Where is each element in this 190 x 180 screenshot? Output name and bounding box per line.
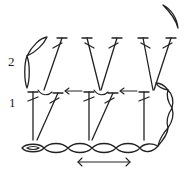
foundation-chain — [22, 144, 158, 153]
row2-stitches — [44, 38, 176, 90]
turning-chain-right — [156, 83, 173, 146]
turning-chain-left — [25, 37, 47, 88]
crochet-chart: 2 1 — [0, 0, 190, 180]
row1-stitches — [28, 90, 149, 140]
row-label-1: 1 — [9, 95, 16, 110]
repeat-arrow — [78, 158, 130, 166]
turning-chain-top-right — [163, 5, 178, 28]
row-label-2: 2 — [8, 54, 15, 69]
